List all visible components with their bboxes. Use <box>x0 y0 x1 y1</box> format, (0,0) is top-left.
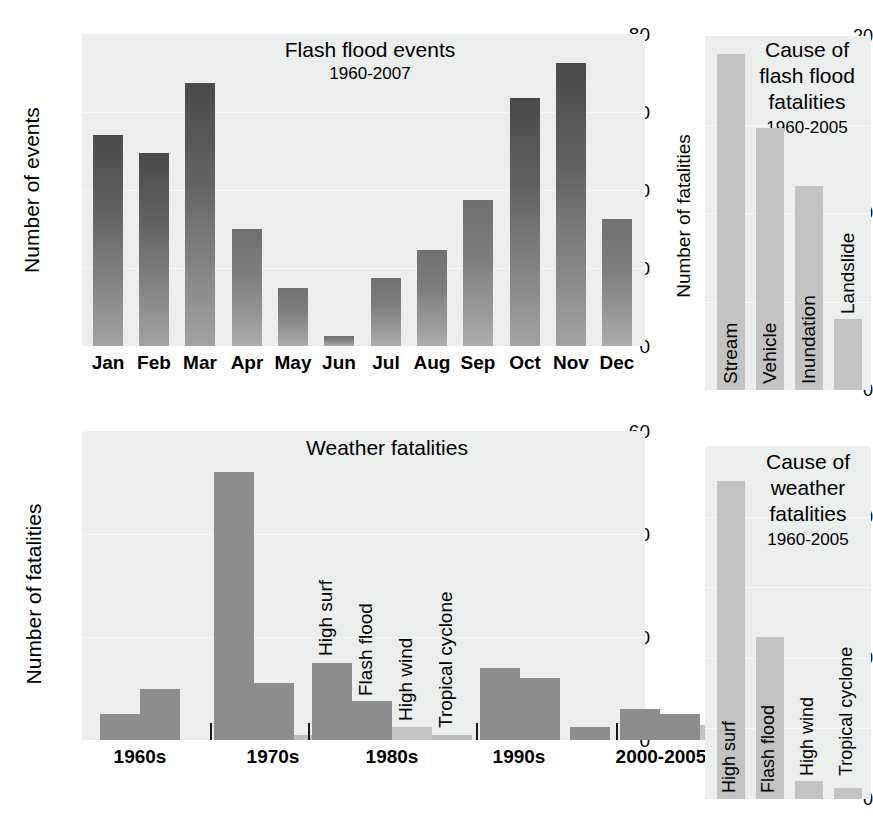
bar-landslide <box>834 319 862 390</box>
x-tick-jan: Jan <box>92 352 125 373</box>
y-axis-label-weather-fatalities: Number of fatalities <box>22 469 46 719</box>
plot-area-cause-weather: Cause of weather fatalities 1960-2005 Hi… <box>705 446 871 799</box>
bar-mar <box>185 83 215 346</box>
bar-tropical-cyclone <box>834 788 862 799</box>
group-tick-2000-2005 <box>616 723 618 740</box>
group-tick-1980s <box>308 723 310 740</box>
panel-flash-flood-events: Number of events 80 60 40 20 0 Flash flo… <box>0 0 650 400</box>
x-tick-apr: Apr <box>231 352 264 373</box>
x-tick-oct: Oct <box>509 352 541 373</box>
x-tick-1990s: 1990s <box>493 746 546 767</box>
x-tick-may: May <box>275 352 312 373</box>
x-tick-mar: Mar <box>183 352 217 373</box>
bar-1990s-high-surf <box>480 668 520 740</box>
panel-cause-weather-fatalities: 80 40 0 Cause of weather fatalities 1960… <box>650 400 873 816</box>
x-tick-1970s: 1970s <box>247 746 300 767</box>
panel-weather-fatalities: Number of fatalities 60 40 20 0 Weather … <box>0 400 650 816</box>
plot-area-flash-flood-events: Flash flood events 1960-2007 <box>82 34 645 346</box>
bar-label-high-wind: High wind <box>798 697 816 776</box>
bar-1980s-high-surf <box>312 663 352 740</box>
x-tick-feb: Feb <box>137 352 171 373</box>
bar-nov <box>556 63 586 346</box>
inplot-label-tropical-cyclone: Tropical cyclone <box>436 591 455 728</box>
bar-label-high-surf: High surf <box>720 721 738 793</box>
bar-label-landslide: Landslide <box>838 233 857 314</box>
bar-1970s-flash-flood <box>254 683 294 740</box>
x-tick-dec: Dec <box>600 352 635 373</box>
bar-series-monthly-events <box>82 34 645 346</box>
bar-aug <box>417 250 447 346</box>
bar-apr <box>232 229 262 346</box>
x-tick-nov: Nov <box>553 352 589 373</box>
group-tick-1990s <box>476 723 478 740</box>
bar-series-weather-by-decade: High surf Flash flood High wind Tropical… <box>82 431 645 740</box>
bar-series-ff-causes: Stream Vehicle Inundation Landslide <box>705 36 871 390</box>
bar-1960s-flash-flood <box>140 689 180 741</box>
bar-jan <box>93 135 123 346</box>
y-axis-label-ff-fatalities: Number of fatalities <box>673 116 695 316</box>
inplot-label-flash-flood: Flash flood <box>356 603 375 696</box>
bar-oct <box>510 98 540 346</box>
x-tick-jul: Jul <box>372 352 399 373</box>
bar-label-flash-flood: Flash flood <box>759 705 777 793</box>
bar-feb <box>139 153 169 346</box>
bar-1980s-high-wind <box>392 727 432 740</box>
bar-label-inundation: Inundation <box>799 295 818 384</box>
inplot-label-high-wind: High wind <box>396 638 415 721</box>
figure-canvas: Number of events 80 60 40 20 0 Flash flo… <box>0 0 873 816</box>
bar-1960s-high-surf <box>100 714 140 740</box>
bar-1980s-flash-flood <box>352 701 392 740</box>
x-tick-sep: Sep <box>461 352 496 373</box>
x-tick-jun: Jun <box>322 352 356 373</box>
bar-dec <box>602 219 632 346</box>
bar-sep <box>463 200 493 346</box>
bar-1970s-high-surf <box>214 472 254 740</box>
plot-area-weather-fatalities: Weather fatalities High surf Flash flo <box>82 431 645 740</box>
panel-cause-flash-flood-fatalities: Number of fatalities 20 10 0 Cause of fl… <box>650 0 873 400</box>
bar-series-weather-causes: High surf Flash flood High wind Tropical… <box>705 446 871 799</box>
inplot-label-high-surf: High surf <box>316 580 335 656</box>
bar-1980s-tropical-cyclone <box>432 735 472 740</box>
bar-1990s-flash-flood <box>520 678 560 740</box>
bar-label-stream: Stream <box>721 323 740 384</box>
bar-may <box>278 288 308 347</box>
bar-jul <box>371 278 401 346</box>
x-tick-aug: Aug <box>414 352 451 373</box>
x-tick-1960s: 1960s <box>114 746 167 767</box>
bar-jun <box>324 336 354 346</box>
group-tick-1970s <box>210 723 212 740</box>
x-tick-1980s: 1980s <box>366 746 419 767</box>
bar-1990s-tropical-cyclone <box>570 727 610 740</box>
y-axis-label-events: Number of events <box>20 75 44 305</box>
plot-area-cause-flash-flood: Cause of flash flood fatalities 1960-200… <box>705 36 871 390</box>
bar-high-wind <box>795 781 823 799</box>
bar-label-tropical-cyclone: Tropical cyclone <box>837 647 855 776</box>
bar-label-vehicle: Vehicle <box>760 323 779 384</box>
